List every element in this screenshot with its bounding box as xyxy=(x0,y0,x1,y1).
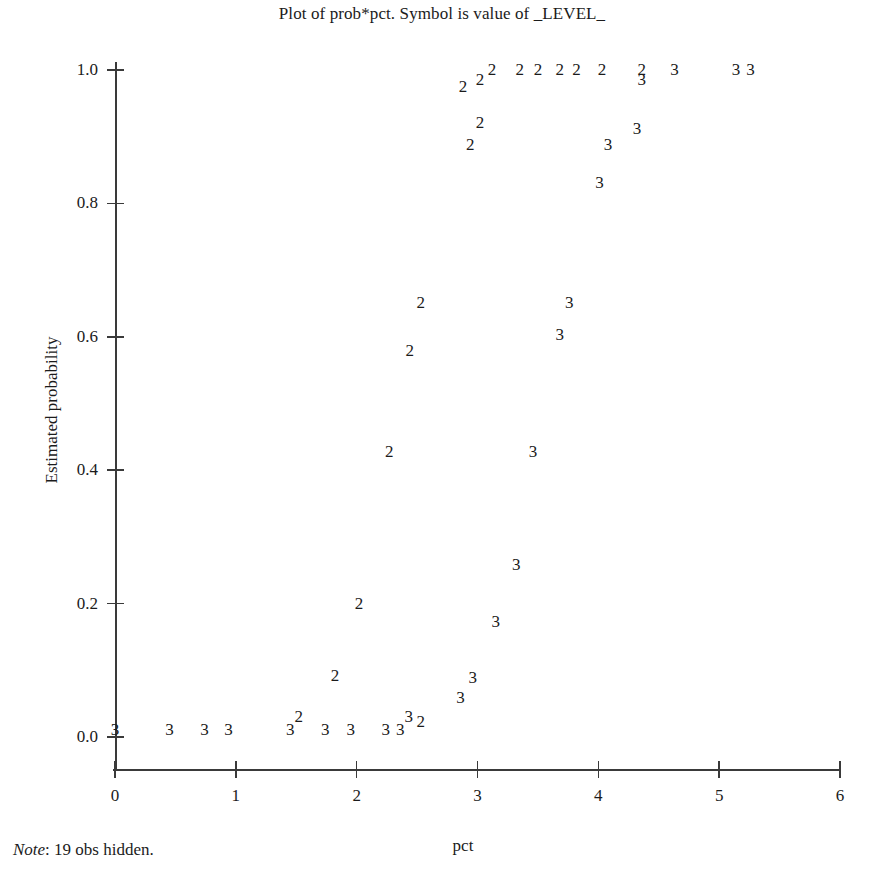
data-point-symbol: 2 xyxy=(455,78,471,95)
data-point-symbol: 3 xyxy=(634,71,650,88)
data-point-symbol: 3 xyxy=(743,61,759,78)
data-point-symbol: 2 xyxy=(594,61,610,78)
data-point-symbol: 3 xyxy=(196,721,212,738)
plot-area: 0.00.20.40.60.81.0 0123456 2222222222222… xyxy=(0,0,884,882)
x-tick-label: 6 xyxy=(820,786,860,806)
data-point-symbol: 3 xyxy=(107,721,123,738)
data-point-symbol: 3 xyxy=(317,721,333,738)
note-caption: Note: 19 obs hidden. xyxy=(13,840,154,860)
x-tick-label: 1 xyxy=(216,786,256,806)
data-point-symbol: 3 xyxy=(453,689,469,706)
y-tick-label: 1.0 xyxy=(28,60,98,80)
x-tick-mark xyxy=(114,761,116,778)
y-tick-label: 0.0 xyxy=(28,727,98,747)
data-point-symbol: 3 xyxy=(392,721,408,738)
y-tick-label: 0.4 xyxy=(28,460,98,480)
x-tick-label: 4 xyxy=(578,786,618,806)
y-tick-mark xyxy=(107,336,124,338)
y-tick-mark xyxy=(107,469,124,471)
scatter-plot-figure: Plot of prob*pct. Symbol is value of _LE… xyxy=(0,0,884,882)
data-point-symbol: 2 xyxy=(472,114,488,131)
x-tick-mark xyxy=(598,761,600,778)
x-tick-label: 2 xyxy=(337,786,377,806)
data-point-symbol: 3 xyxy=(552,326,568,343)
data-point-symbol: 3 xyxy=(488,613,504,630)
data-point-symbol: 3 xyxy=(561,294,577,311)
x-tick-mark xyxy=(718,761,720,778)
x-tick-mark xyxy=(477,761,479,778)
data-point-symbol: 3 xyxy=(221,721,237,738)
x-tick-mark xyxy=(356,761,358,778)
data-point-symbol: 3 xyxy=(465,669,481,686)
y-tick-mark xyxy=(107,69,124,71)
y-axis-label: Estimated probability xyxy=(42,280,62,540)
data-point-symbol: 3 xyxy=(629,120,645,137)
y-tick-mark xyxy=(107,603,124,605)
data-point-symbol: 3 xyxy=(161,721,177,738)
data-point-symbol: 2 xyxy=(402,342,418,359)
data-point-symbol: 3 xyxy=(508,556,524,573)
data-point-symbol: 2 xyxy=(530,61,546,78)
data-point-symbol: 2 xyxy=(569,61,585,78)
x-tick-label: 5 xyxy=(699,786,739,806)
data-point-symbol: 3 xyxy=(282,721,298,738)
note-text: : 19 obs hidden. xyxy=(45,840,154,859)
y-tick-label: 0.2 xyxy=(28,594,98,614)
data-point-symbol: 3 xyxy=(525,443,541,460)
y-tick-label: 0.6 xyxy=(28,327,98,347)
data-point-symbol: 3 xyxy=(343,721,359,738)
data-point-symbol: 2 xyxy=(413,294,429,311)
y-tick-label: 0.8 xyxy=(28,193,98,213)
x-axis-label: pct xyxy=(403,836,523,856)
data-point-symbol: 2 xyxy=(381,443,397,460)
data-point-symbol: 3 xyxy=(666,61,682,78)
data-point-symbol: 2 xyxy=(327,667,343,684)
data-point-symbol: 2 xyxy=(512,61,528,78)
data-point-symbol: 2 xyxy=(351,595,367,612)
x-tick-mark xyxy=(839,761,841,778)
y-axis-line xyxy=(115,62,117,770)
data-point-symbol: 2 xyxy=(552,61,568,78)
data-point-symbol: 3 xyxy=(600,136,616,153)
x-tick-mark xyxy=(235,761,237,778)
data-point-symbol: 3 xyxy=(592,174,608,191)
note-label: Note xyxy=(13,840,45,859)
y-tick-mark xyxy=(107,203,124,205)
x-tick-label: 3 xyxy=(458,786,498,806)
x-tick-label: 0 xyxy=(95,786,135,806)
data-point-symbol: 2 xyxy=(462,136,478,153)
data-point-symbol: 2 xyxy=(484,61,500,78)
